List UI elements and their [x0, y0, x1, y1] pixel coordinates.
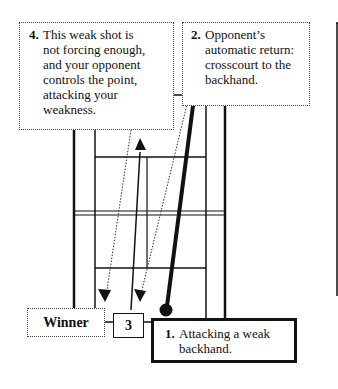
callout-2-number: 2.	[191, 27, 205, 87]
callout-4-line: controls the point,	[43, 72, 145, 87]
callout-1-line: Attacking a weak	[179, 326, 270, 341]
callout-4-line: weakness.	[43, 102, 145, 117]
shot-3-label: 3	[113, 313, 144, 338]
callout-1: 1. Attacking a weak backhand.	[151, 318, 297, 363]
callout-4: 4. This weak shot is not forcing enough,…	[19, 22, 174, 130]
winner-text: Winner	[43, 315, 89, 330]
shot-3-arrowhead	[135, 138, 146, 150]
callout-2: 2. Opponent’s automatic return: crosscou…	[182, 22, 310, 106]
callout-4-line: This weak shot is	[43, 27, 145, 42]
callout-1-number: 1.	[165, 326, 179, 356]
winner-label: Winner	[27, 308, 105, 337]
shot-1-origin-dot	[160, 304, 173, 317]
shot-4-arrowhead	[98, 289, 111, 302]
callout-4-number: 4.	[29, 27, 43, 117]
callout-2-line: Opponent’s	[205, 27, 294, 42]
callout-4-line: attacking your	[43, 87, 145, 102]
callout-1-line: backhand.	[179, 341, 270, 356]
callout-2-line: backhand.	[205, 72, 294, 87]
callout-4-line: and your opponent	[43, 57, 145, 72]
callout-4-line: not forcing enough,	[43, 42, 145, 57]
callout-2-line: crosscourt to the	[205, 57, 294, 72]
shot-4-path	[107, 130, 131, 290]
callout-2-line: automatic return:	[205, 42, 294, 57]
shot-3-arrow	[131, 152, 140, 310]
shot-2-arrowhead	[134, 289, 146, 302]
shot-3-text: 3	[125, 318, 132, 333]
